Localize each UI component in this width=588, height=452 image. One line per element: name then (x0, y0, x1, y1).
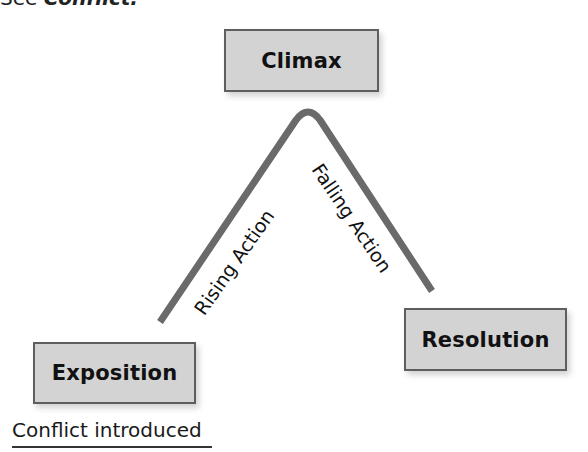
resolution-box: Resolution (404, 308, 567, 371)
conflict-introduced-note: Conflict introduced (12, 418, 212, 448)
climax-box: Climax (224, 29, 379, 92)
plot-diagram: See Conflict. Climax Rising Action Falli… (0, 0, 588, 452)
climax-label: Climax (261, 49, 342, 73)
exposition-box: Exposition (33, 342, 196, 404)
exposition-label: Exposition (52, 361, 178, 385)
resolution-label: Resolution (421, 328, 549, 352)
